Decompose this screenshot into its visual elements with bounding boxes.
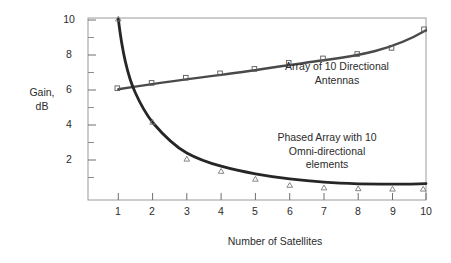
x-tick-label-9: 9 bbox=[383, 205, 403, 217]
chart-figure: 10 8 6 4 2 1 2 3 4 5 6 7 8 9 10 Gain, dB… bbox=[0, 0, 451, 263]
x-tick-label-4: 4 bbox=[211, 205, 231, 217]
annotation-directional-line2: Antennas bbox=[262, 74, 412, 88]
annotation-phased-line3: elements bbox=[252, 158, 402, 172]
x-tick-label-7: 7 bbox=[314, 205, 334, 217]
x-tick-label-3: 3 bbox=[177, 205, 197, 217]
annotation-directional-line1: Array of 10 Directional bbox=[262, 60, 412, 74]
x-tick-label-1: 1 bbox=[108, 205, 128, 217]
x-tick-label-5: 5 bbox=[245, 205, 265, 217]
x-tick-label-6: 6 bbox=[280, 205, 300, 217]
annotation-directional-antennas: Array of 10 Directional Antennas bbox=[262, 60, 412, 87]
annotation-phased-line2: Omni-directional bbox=[252, 145, 402, 159]
y-axis-minor-ticks bbox=[88, 38, 94, 178]
x-tick-label-10: 10 bbox=[414, 205, 438, 217]
y-tick-label-2: 2 bbox=[58, 153, 80, 165]
y-axis-title: Gain, dB bbox=[16, 85, 68, 113]
y-axis-title-line2: dB bbox=[16, 99, 68, 113]
annotation-phased-line1: Phased Array with 10 bbox=[252, 131, 402, 145]
x-axis-title: Number of Satellites bbox=[150, 235, 400, 247]
y-tick-label-8: 8 bbox=[58, 48, 80, 60]
y-tick-label-10: 10 bbox=[58, 13, 80, 25]
x-axis-ticks bbox=[118, 193, 426, 200]
x-tick-label-2: 2 bbox=[142, 205, 162, 217]
x-tick-label-8: 8 bbox=[348, 205, 368, 217]
y-axis-title-line1: Gain, bbox=[16, 85, 68, 99]
y-tick-label-4: 4 bbox=[58, 118, 80, 130]
y-axis-major-ticks bbox=[88, 20, 96, 160]
annotation-phased-array: Phased Array with 10 Omni-directional el… bbox=[252, 131, 402, 172]
